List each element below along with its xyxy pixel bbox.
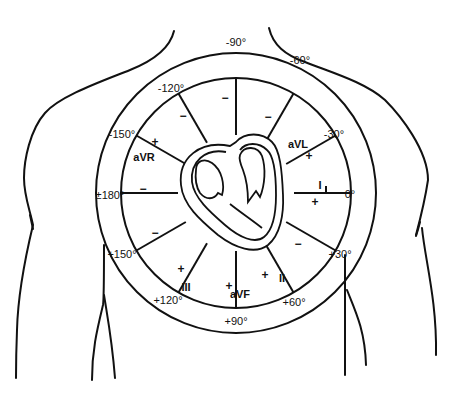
lead-label-iii: III: [181, 281, 190, 293]
angle-label: +90°: [224, 315, 247, 327]
heart-icon: [181, 135, 283, 250]
lead-label-i: I: [318, 179, 321, 191]
angle-label: -90°: [226, 36, 246, 48]
angle-label: -30°: [324, 128, 344, 140]
angle-label: +60°: [282, 296, 305, 308]
negative-pole-sign: −: [221, 91, 228, 105]
lead-label-avr: aVR: [133, 151, 154, 163]
lead-axis-150: [136, 222, 185, 251]
positive-pole-sign: +: [177, 262, 184, 276]
angle-label: +120°: [153, 294, 182, 306]
negative-pole-sign: −: [139, 182, 146, 196]
positive-pole-sign: +: [151, 135, 158, 149]
lead-label-avf: aVF: [230, 288, 250, 300]
positive-pole-sign: +: [305, 149, 312, 163]
angle-label: -150°: [109, 128, 135, 140]
angle-label: ±180°: [96, 189, 125, 201]
positive-pole-sign: +: [311, 195, 318, 209]
negative-pole-sign: −: [151, 226, 158, 240]
negative-pole-sign: −: [264, 110, 271, 124]
lead-axis-60: [265, 243, 294, 292]
hexaxial-diagram: -90°-60°-30°0°+30°+60°+90°+120°+150°±180…: [0, 0, 462, 397]
angle-label: 0°: [345, 188, 356, 200]
negative-pole-sign: −: [294, 237, 301, 251]
angle-label: -60°: [290, 54, 310, 66]
lead-label-ii: II: [279, 272, 285, 284]
angle-label: +150°: [107, 248, 136, 260]
angle-label: -120°: [158, 82, 184, 94]
positive-pole-sign: +: [261, 268, 268, 282]
negative-pole-sign: −: [179, 109, 186, 123]
angle-label: +30°: [328, 248, 351, 260]
positive-pole-sign: +: [225, 279, 232, 293]
